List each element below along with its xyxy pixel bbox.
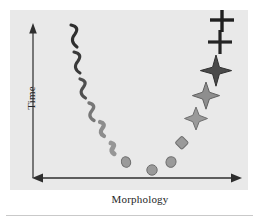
marker-diamond-1 (175, 136, 189, 150)
y-axis-label: Time (21, 68, 41, 128)
marker-squiggle-5 (100, 122, 104, 136)
plot-panel: Time (10, 10, 248, 190)
marker-star4-1 (185, 107, 208, 130)
plot-canvas (10, 10, 248, 190)
x-axis-arrow-right-icon (231, 173, 242, 182)
x-axis-label: Morphology (60, 190, 220, 208)
marker-squiggle-6 (111, 143, 114, 154)
y-axis-arrow-up-icon (29, 23, 37, 34)
marker-ellipse-2 (164, 155, 178, 169)
data-markers (71, 10, 234, 175)
axis-group (29, 23, 242, 183)
marker-plus-1 (208, 30, 232, 54)
marker-ellipse-1 (120, 155, 132, 168)
marker-circle-1 (147, 165, 157, 175)
marker-squiggle-4 (89, 103, 94, 121)
bottom-separator-rule (6, 215, 253, 216)
marker-star4-3 (200, 55, 231, 86)
marker-plus-2 (210, 10, 234, 32)
figure-container: Time Morphology (0, 0, 259, 222)
marker-squiggle-2 (74, 52, 80, 73)
marker-squiggle-1 (71, 25, 77, 47)
marker-squiggle-3 (80, 79, 86, 98)
